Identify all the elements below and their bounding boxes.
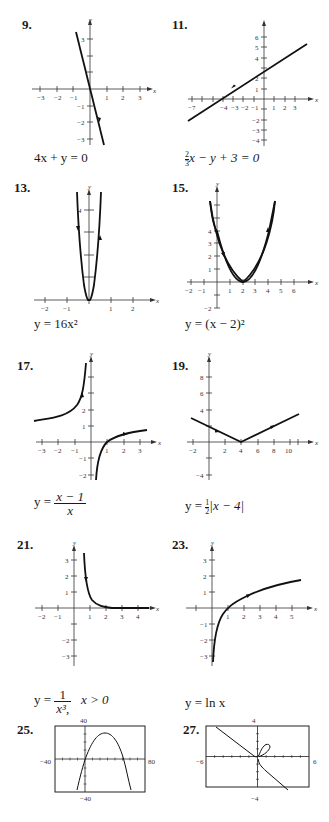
svg-text:4: 4 xyxy=(274,613,278,621)
svg-text:2: 2 xyxy=(283,104,287,112)
svg-text:3: 3 xyxy=(293,104,297,112)
svg-text:−2: −2 xyxy=(252,117,260,125)
svg-text:y: y xyxy=(88,16,93,24)
svg-text:x: x xyxy=(152,87,157,95)
svg-text:5: 5 xyxy=(279,287,283,295)
svg-text:2: 2 xyxy=(131,305,135,313)
svg-text:4: 4 xyxy=(208,228,212,236)
svg-text:−1: −1 xyxy=(54,613,62,621)
svg-text:y: y xyxy=(210,539,215,547)
svg-text:5: 5 xyxy=(290,613,294,621)
svg-text:2: 2 xyxy=(241,287,245,295)
svg-text:−1: −1 xyxy=(70,94,78,102)
svg-text:−1: −1 xyxy=(77,103,85,111)
fraction: 1x³, xyxy=(54,688,71,715)
svg-text:5: 5 xyxy=(255,44,259,52)
problem-number: 13. xyxy=(14,180,30,196)
svg-text:2: 2 xyxy=(121,94,125,102)
svg-text:−2: −2 xyxy=(38,613,46,621)
svg-text:1: 1 xyxy=(105,447,109,455)
equation-9: 4x + y = 0 xyxy=(34,150,88,166)
svg-text:−2: −2 xyxy=(54,447,62,455)
svg-text:2: 2 xyxy=(65,573,69,581)
svg-text:−4: −4 xyxy=(220,104,228,112)
svg-text:6: 6 xyxy=(256,447,260,455)
svg-text:3: 3 xyxy=(258,613,262,621)
svg-text:3: 3 xyxy=(138,94,142,102)
svg-text:4: 4 xyxy=(266,287,270,295)
svg-text:4: 4 xyxy=(200,407,204,415)
equation-19: y = 12|x − 4| xyxy=(185,498,244,515)
svg-text:6: 6 xyxy=(313,758,317,766)
svg-text:−3: −3 xyxy=(62,653,70,661)
graph-19: −2 2 4 6 8 10 8 6 4 −4 x y xyxy=(183,353,323,483)
svg-text:y: y xyxy=(207,350,212,358)
svg-text:−2: −2 xyxy=(204,305,212,313)
svg-text:6: 6 xyxy=(292,287,296,295)
svg-text:−2: −2 xyxy=(41,305,49,313)
equation-21: y = 1x³, x > 0 xyxy=(34,688,109,715)
svg-text:−40: −40 xyxy=(40,758,51,766)
svg-text:2: 2 xyxy=(242,613,246,621)
svg-text:−3: −3 xyxy=(37,94,45,102)
svg-text:y: y xyxy=(215,180,220,188)
svg-text:x: x xyxy=(314,96,319,104)
svg-text:2: 2 xyxy=(223,447,227,455)
svg-text:40: 40 xyxy=(80,717,88,725)
graph-23: 1 2 3 4 5 3 2 1 −1 −2 −3 x y xyxy=(183,538,323,668)
svg-text:1: 1 xyxy=(65,589,69,597)
svg-text:−2: −2 xyxy=(79,472,87,480)
svg-text:−2: −2 xyxy=(62,637,70,645)
graph-13: −2 −1 1 2 4 x y xyxy=(30,186,165,306)
svg-text:8: 8 xyxy=(272,447,276,455)
svg-text:1: 1 xyxy=(105,94,109,102)
svg-text:x: x xyxy=(314,279,319,287)
svg-text:−1: −1 xyxy=(79,455,87,463)
svg-text:x: x xyxy=(155,605,160,613)
svg-text:−2: −2 xyxy=(185,287,193,295)
problem-number: 25. xyxy=(17,722,33,738)
svg-text:1: 1 xyxy=(88,613,92,621)
svg-text:−7: −7 xyxy=(188,104,196,112)
svg-text:−3: −3 xyxy=(200,653,208,661)
svg-text:−3: −3 xyxy=(252,127,260,135)
svg-text:4: 4 xyxy=(255,55,259,63)
svg-text:1: 1 xyxy=(109,305,113,313)
svg-text:−1: −1 xyxy=(200,621,208,629)
svg-text:x: x xyxy=(155,297,160,305)
svg-text:3: 3 xyxy=(65,557,69,565)
svg-text:1: 1 xyxy=(208,266,212,274)
svg-text:−2: −2 xyxy=(200,637,208,645)
svg-text:1: 1 xyxy=(203,589,207,597)
svg-text:−3: −3 xyxy=(38,447,46,455)
graph-9: −3 −2 −1 1 2 3 3 −1 −2 −3 x y xyxy=(30,18,160,148)
equation-17: y = x − 1x xyxy=(34,490,86,517)
svg-text:3: 3 xyxy=(81,36,85,44)
svg-text:x: x xyxy=(314,439,319,447)
svg-text:2: 2 xyxy=(203,573,207,581)
svg-text:−2: −2 xyxy=(241,104,249,112)
svg-text:3: 3 xyxy=(203,557,207,565)
svg-text:2: 2 xyxy=(122,447,126,455)
svg-text:6: 6 xyxy=(255,34,259,42)
svg-text:−4: −4 xyxy=(196,472,204,480)
graph-17: −3 −2 −1 1 2 3 2 1 −1 −2 x y xyxy=(30,353,165,483)
graph-11: −7 −4 −3 −2 −1 1 2 3 6 5 4 2 1 −2 −3 −4 … xyxy=(183,18,323,148)
svg-text:−1: −1 xyxy=(198,287,206,295)
graph-15: −2 −1 1 2 3 4 5 6 4 3 2 1 −2 x y xyxy=(183,183,323,308)
graphing-window-27: 4 −4 −6 6 xyxy=(196,717,321,802)
svg-text:3: 3 xyxy=(120,613,124,621)
svg-text:4: 4 xyxy=(239,447,243,455)
svg-text:y: y xyxy=(87,183,92,191)
svg-text:y: y xyxy=(89,350,94,358)
svg-text:4: 4 xyxy=(252,717,256,725)
svg-text:1: 1 xyxy=(255,86,259,94)
svg-text:3: 3 xyxy=(208,240,212,248)
svg-text:2: 2 xyxy=(208,253,212,261)
svg-text:2: 2 xyxy=(104,613,108,621)
svg-text:−3: −3 xyxy=(231,104,239,112)
graph-21: −2 −1 1 2 3 4 3 2 1 −2 −3 x y xyxy=(30,538,165,668)
svg-text:−3: −3 xyxy=(77,136,85,144)
equation-23: y = ln x xyxy=(185,695,225,711)
svg-text:−2: −2 xyxy=(77,119,85,127)
